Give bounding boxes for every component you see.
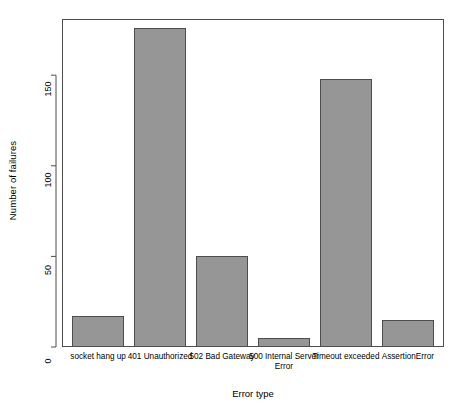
bar (134, 28, 186, 347)
bar (382, 320, 434, 347)
bars-container (62, 19, 444, 347)
bar (320, 79, 372, 347)
x-axis-tick-labels: socket hang up401 Unauthorized502 Bad Ga… (62, 352, 444, 386)
y-axis-title-text: Number of failures (8, 140, 19, 219)
bar (258, 338, 310, 347)
x-axis-tick-label: AssertionError (364, 352, 452, 362)
y-axis-tick-label: 0 (43, 346, 53, 376)
y-axis-tick-label: 50 (43, 255, 53, 285)
y-axis-tick-label: 150 (43, 74, 53, 104)
y-axis-title: Number of failures (0, 0, 26, 360)
bar (196, 256, 248, 347)
x-axis-title: Error type (62, 388, 444, 399)
y-axis-tick-label: 100 (43, 165, 53, 195)
bar (72, 316, 124, 347)
bar-chart: Number of failures socket hang up401 Una… (0, 0, 458, 413)
